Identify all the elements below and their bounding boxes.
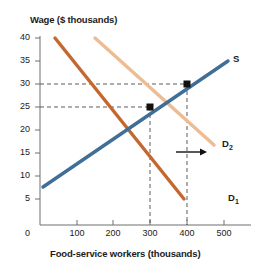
supply-curve-label: S bbox=[233, 53, 239, 64]
supply-demand-chart: Wage ($ thousands) Food-service workers … bbox=[0, 0, 259, 267]
demand-curve-d2-label: D2 bbox=[222, 138, 233, 151]
y-axis-ticks bbox=[35, 38, 40, 199]
y-tick-label-40: 40 bbox=[10, 32, 30, 42]
y-tick-label-15: 15 bbox=[10, 147, 30, 157]
equilibrium-point-2 bbox=[184, 81, 191, 88]
x-tick-label-400: 400 bbox=[174, 228, 200, 238]
equilibrium-point-1 bbox=[147, 104, 154, 111]
y-tick-label-35: 35 bbox=[10, 55, 30, 65]
shift-arrow-icon bbox=[176, 149, 207, 156]
supply-curve-s bbox=[43, 61, 228, 187]
x-tick-label-100: 100 bbox=[64, 228, 90, 238]
x-tick-label-300: 300 bbox=[137, 228, 163, 238]
demand-curve-d2-label-sub: 2 bbox=[229, 144, 233, 151]
y-axis-title: Wage ($ thousands) bbox=[30, 14, 117, 25]
y-tick-label-5: 5 bbox=[10, 193, 30, 203]
x-axis-ticks bbox=[77, 220, 224, 225]
demand-curve-d2 bbox=[95, 38, 214, 145]
x-axis-title: Food-service workers (thousands) bbox=[50, 248, 200, 259]
y-tick-label-10: 10 bbox=[10, 170, 30, 180]
x-tick-label-200: 200 bbox=[100, 228, 126, 238]
x-tick-label-500: 500 bbox=[211, 228, 237, 238]
demand-curve-d1-label-sub: 1 bbox=[235, 198, 239, 205]
y-tick-label-0: 0 bbox=[10, 228, 30, 238]
demand-curve-d2-label-base: D bbox=[222, 138, 229, 149]
demand-curve-d1-label-base: D bbox=[228, 192, 235, 203]
chart-plot-area bbox=[0, 0, 259, 267]
demand-curve-d1-label: D1 bbox=[228, 192, 239, 205]
y-tick-label-30: 30 bbox=[10, 78, 30, 88]
y-tick-label-25: 25 bbox=[10, 101, 30, 111]
y-tick-label-20: 20 bbox=[10, 124, 30, 134]
